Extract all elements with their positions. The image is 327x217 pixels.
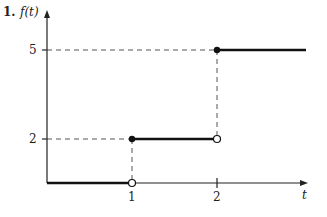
y-tick-5: 5 <box>29 43 37 57</box>
step-function-graph: 1. f(t) 5 2 1 2 t <box>0 0 327 217</box>
axes <box>42 16 302 188</box>
y-axis-label: f(t) <box>19 5 39 19</box>
closed-point-t1-2 <box>129 136 135 142</box>
y-axis-arrow-icon <box>44 10 50 18</box>
x-axis-label: t <box>302 188 307 202</box>
x-tick-1: 1 <box>128 190 136 204</box>
open-point-t1-0 <box>129 180 136 187</box>
closed-point-t2-5 <box>214 47 220 53</box>
x-axis-arrow-icon <box>300 180 308 186</box>
open-point-t2-2 <box>214 136 221 143</box>
y-tick-2: 2 <box>29 132 37 146</box>
step-segments <box>47 50 306 183</box>
x-tick-2: 2 <box>213 190 221 204</box>
problem-number: 1. <box>3 5 16 19</box>
dashed-guides <box>47 50 217 183</box>
